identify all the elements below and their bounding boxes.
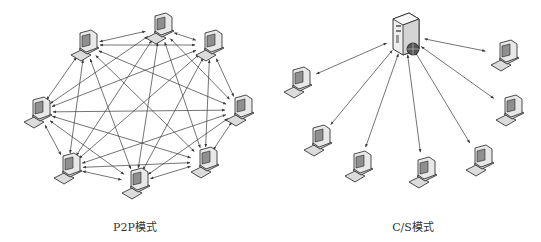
cs-caption: C/S模式 — [392, 218, 434, 234]
connection-arrow — [83, 171, 122, 180]
connection-arrow — [331, 50, 392, 124]
computer-icon — [409, 157, 437, 188]
connection-arrow — [76, 41, 152, 156]
computer-icon — [191, 147, 219, 178]
connection-arrow — [50, 37, 147, 104]
connection-arrow — [138, 43, 157, 168]
computer-icon — [496, 95, 524, 126]
computer-icon — [345, 151, 373, 182]
cs-nodes — [284, 13, 524, 188]
connection-arrow — [100, 31, 146, 41]
connection-arrow — [150, 166, 190, 178]
connection-arrow — [52, 116, 190, 157]
connection-arrow — [90, 59, 131, 169]
cs-connection-lines — [316, 39, 493, 152]
connection-arrow — [415, 52, 469, 143]
computer-icon — [226, 95, 254, 126]
connection-arrow — [366, 54, 399, 147]
computer-icon — [466, 145, 494, 176]
connection-arrow — [174, 33, 196, 40]
computer-icon — [24, 97, 52, 128]
connection-arrow — [47, 57, 77, 99]
connection-arrow — [79, 55, 198, 158]
connection-arrow — [53, 110, 225, 112]
computer-icon — [196, 30, 224, 61]
computer-icon — [146, 13, 174, 44]
connection-arrow — [70, 60, 83, 153]
connection-arrow — [216, 59, 233, 97]
connection-arrow — [52, 50, 196, 106]
computer-icon — [71, 30, 99, 61]
computer-icon — [491, 40, 519, 71]
computer-icon — [122, 168, 150, 199]
connection-arrow — [143, 58, 203, 170]
network-diagram — [0, 0, 541, 242]
p2p-caption: P2P模式 — [113, 218, 157, 234]
server-icon — [393, 13, 419, 55]
connection-arrow — [425, 39, 486, 51]
connection-arrow — [83, 163, 190, 168]
computer-icon — [284, 67, 312, 98]
connection-arrow — [421, 47, 493, 99]
computer-icon — [304, 125, 332, 156]
computer-icon — [54, 153, 82, 184]
connection-arrow — [45, 125, 61, 155]
p2p-nodes — [24, 13, 254, 199]
connection-arrow — [408, 55, 421, 152]
